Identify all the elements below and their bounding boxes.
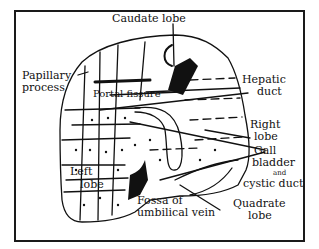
label-right-lobe-line1: Right	[250, 119, 280, 130]
label-gall-bladder-and: and	[273, 170, 286, 177]
label-left-lobe-line2: lobe	[80, 179, 104, 190]
label-gall-bladder-line1: Gall	[254, 145, 276, 156]
label-right-lobe-line2: lobe	[254, 131, 278, 142]
label-caudate-lobe: Caudate lobe	[112, 13, 186, 24]
label-gall-bladder-line2: bladder	[252, 157, 295, 168]
label-fossa-umbilical-vein-line2: umbilical vein	[137, 207, 215, 218]
label-portal-fissure: Portal fissure	[93, 88, 161, 99]
label-quadrate-lobe-line1: Quadrate	[233, 198, 285, 209]
label-fossa-umbilical-vein-line1: Fossa of	[137, 195, 183, 206]
label-left-lobe-line1: Left	[70, 166, 92, 177]
label-papillary-process-line1: Papillary	[22, 70, 71, 81]
label-hepatic-duct-line2: duct	[257, 86, 282, 97]
label-cystic-duct: cystic duct	[243, 178, 303, 189]
label-papillary-process-line2: process	[22, 82, 65, 93]
label-quadrate-lobe-line2: lobe	[248, 210, 272, 221]
label-hepatic-duct-line1: Hepatic	[242, 74, 286, 85]
